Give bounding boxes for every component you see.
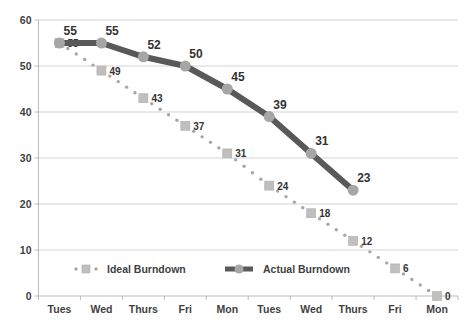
ideal-data-label: 0 (445, 291, 451, 302)
ideal-trail-dot (242, 165, 245, 168)
actual-burndown-line (59, 43, 353, 190)
ideal-data-label: 37 (193, 121, 205, 132)
x-axis-category-label: Fri (179, 303, 193, 315)
ideal-trail-dot (167, 113, 170, 116)
legend-ideal-dot-icon (74, 267, 77, 270)
ideal-data-point-marker[interactable] (349, 236, 358, 245)
x-axis-category-label: Mon (426, 303, 448, 315)
ideal-trail-dot (117, 80, 120, 83)
x-axis-category-label: Tues (48, 303, 72, 315)
y-axis-tick-label: 60 (20, 14, 32, 26)
y-axis-tick-label: 30 (20, 152, 32, 164)
ideal-trail-dot (259, 177, 262, 180)
ideal-data-label: 24 (277, 181, 289, 192)
actual-data-point-marker[interactable] (54, 38, 65, 49)
ideal-trail-dot (209, 141, 212, 144)
ideal-trail-dot (91, 63, 94, 66)
legend-ideal-dot-icon (94, 267, 97, 270)
ideal-data-label: 18 (319, 208, 331, 219)
actual-data-label: 52 (147, 38, 161, 52)
x-axis-category-label: Mon (216, 303, 238, 315)
ideal-trail-dot (335, 228, 338, 231)
x-axis-category-label: Wed (300, 303, 322, 315)
ideal-trail-dot (175, 119, 178, 122)
actual-data-point-marker[interactable] (306, 148, 317, 159)
x-axis-category-label: Tues (257, 303, 281, 315)
chart-legend: Ideal BurndownActual Burndown (74, 263, 350, 275)
ideal-trail-dot (158, 108, 161, 111)
actual-data-label: 55 (105, 24, 119, 38)
ideal-trail-dot (385, 261, 388, 264)
ideal-trail-dot (410, 278, 413, 281)
actual-data-point-marker[interactable] (138, 51, 149, 62)
ideal-data-label: 43 (151, 93, 163, 104)
ideal-trail-dot (293, 200, 296, 203)
series-actual-burndown: 5555525045393123 (54, 24, 371, 196)
legend-label-actual-burndown[interactable]: Actual Burndown (263, 263, 350, 275)
chart-canvas: 0102030405060TuesWedThursFriMonTuesWedTh… (0, 0, 476, 331)
legend-actual-circle-icon (235, 265, 244, 274)
ideal-data-label: 12 (361, 236, 373, 247)
legend-label-ideal-burndown[interactable]: Ideal Burndown (107, 263, 186, 275)
actual-data-label: 31 (315, 134, 329, 148)
actual-data-point-marker[interactable] (264, 111, 275, 122)
ideal-trail-dot (251, 171, 254, 174)
ideal-trail-dot (377, 256, 380, 259)
ideal-trail-dot (326, 223, 329, 226)
y-axis-tick-label: 50 (20, 60, 32, 72)
ideal-trail-dot (83, 58, 86, 61)
x-axis-category-label: Wed (90, 303, 112, 315)
ideal-trail-dot (217, 146, 220, 149)
y-axis-tick-label: 10 (20, 244, 32, 256)
actual-data-label: 55 (63, 24, 77, 38)
actual-data-point-marker[interactable] (348, 185, 359, 196)
ideal-trail-dot (301, 206, 304, 209)
ideal-data-point-marker[interactable] (307, 209, 316, 218)
actual-data-label: 39 (273, 98, 287, 112)
ideal-data-label: 49 (109, 66, 121, 77)
y-axis-tick-label: 40 (20, 106, 32, 118)
x-axis-category-label: Thurs (339, 303, 368, 315)
ideal-data-point-marker[interactable] (181, 121, 190, 130)
ideal-data-point-marker[interactable] (223, 149, 232, 158)
ideal-data-label: 31 (235, 148, 247, 159)
ideal-trail-dot (133, 91, 136, 94)
ideal-trail-dot (419, 283, 422, 286)
ideal-trail-dot (284, 195, 287, 198)
ideal-data-point-marker[interactable] (265, 181, 274, 190)
ideal-trail-dot (427, 289, 430, 292)
y-axis-tick-label: 20 (20, 198, 32, 210)
ideal-trail-dot (125, 85, 128, 88)
ideal-trail-dot (75, 52, 78, 55)
actual-data-label: 23 (357, 171, 371, 185)
actual-data-point-marker[interactable] (96, 38, 107, 49)
y-axis-tick-label: 0 (26, 290, 32, 302)
actual-data-label: 50 (189, 47, 203, 61)
actual-data-point-marker[interactable] (180, 61, 191, 72)
burndown-chart: 0102030405060TuesWedThursFriMonTuesWedTh… (0, 0, 476, 331)
x-axis-category-label: Fri (388, 303, 402, 315)
ideal-data-label: 6 (403, 263, 409, 274)
legend-ideal-square-icon (82, 265, 90, 273)
ideal-trail-dot (343, 234, 346, 237)
ideal-data-point-marker[interactable] (433, 292, 442, 301)
ideal-data-point-marker[interactable] (97, 66, 106, 75)
ideal-data-point-marker[interactable] (391, 264, 400, 273)
ideal-data-point-marker[interactable] (139, 94, 148, 103)
ideal-trail-dot (200, 135, 203, 138)
ideal-trail-dot (368, 250, 371, 253)
x-axis-category-label: Thurs (129, 303, 158, 315)
actual-data-label: 45 (231, 70, 245, 84)
actual-data-point-marker[interactable] (222, 84, 233, 95)
